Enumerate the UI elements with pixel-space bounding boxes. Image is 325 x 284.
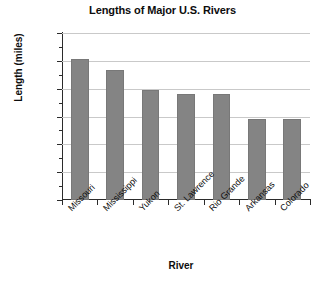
y-axis-minor-tick <box>59 75 62 76</box>
y-axis-minor-tick <box>59 158 62 159</box>
gridline <box>62 89 310 90</box>
plot-area <box>62 33 310 200</box>
x-axis-tick <box>239 200 240 205</box>
gridline <box>62 33 310 34</box>
y-axis-title: Length (miles) <box>13 0 24 138</box>
y-axis-minor-tick <box>59 47 62 48</box>
y-axis-minor-tick <box>59 186 62 187</box>
bar-chart-figure: Lengths of Major U.S. Rivers Length (mil… <box>0 0 325 284</box>
x-axis-tick <box>168 200 169 205</box>
x-axis-tick <box>275 200 276 205</box>
bar <box>71 59 89 200</box>
x-axis-title: River <box>52 260 310 271</box>
y-axis-tick <box>57 89 62 90</box>
y-axis-minor-tick <box>59 130 62 131</box>
y-axis-tick <box>57 172 62 173</box>
x-axis-tick <box>62 200 63 205</box>
x-axis-tick <box>204 200 205 205</box>
x-axis-tick-labels: MissouriMississippiYukonSt. LawrenceRio … <box>62 206 325 258</box>
gridline <box>62 61 310 62</box>
y-axis-tick <box>57 33 62 34</box>
x-axis-tick <box>97 200 98 205</box>
chart-title: Lengths of Major U.S. Rivers <box>0 4 325 16</box>
y-axis-tick <box>57 61 62 62</box>
y-axis-tick <box>57 144 62 145</box>
x-axis-tick <box>310 200 311 205</box>
bar <box>142 90 160 200</box>
x-axis-tick <box>133 200 134 205</box>
bar <box>106 70 124 200</box>
y-axis-tick <box>57 117 62 118</box>
y-axis-minor-tick <box>59 103 62 104</box>
